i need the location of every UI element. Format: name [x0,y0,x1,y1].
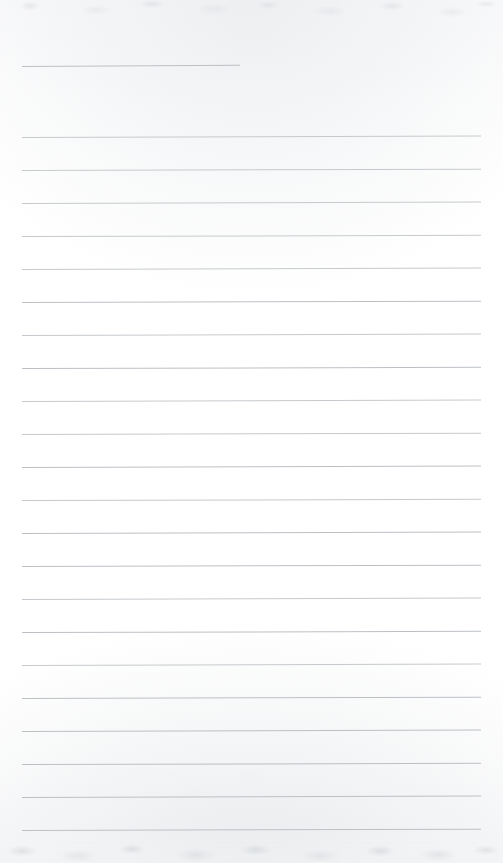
ruled-line-3 [22,202,481,204]
ruled-lines-layer [0,0,503,863]
ruled-line-14 [22,565,481,567]
ruled-line-6 [22,301,481,303]
ruled-line-18 [22,697,481,699]
ruled-line-2 [22,169,481,171]
ruled-line-1 [22,136,481,138]
scan-texture-bottom [0,829,503,863]
ruled-line-13 [22,532,481,534]
ruled-line-5 [22,268,481,270]
ruled-line-21 [22,796,481,798]
ruled-line-15 [22,598,481,600]
ruled-line-4 [22,235,481,237]
ruled-line-17 [22,664,481,666]
ruled-line-9 [22,400,481,402]
ruled-line-11 [22,466,481,468]
ruled-line-10 [22,433,481,435]
ruled-line-8 [22,367,481,369]
title-rule [22,65,240,67]
ruled-line-20 [22,763,481,765]
scanned-page [0,0,503,863]
ruled-line-19 [22,730,481,732]
ruled-line-7 [22,334,481,336]
ruled-line-16 [22,631,481,633]
ruled-line-12 [22,499,481,501]
